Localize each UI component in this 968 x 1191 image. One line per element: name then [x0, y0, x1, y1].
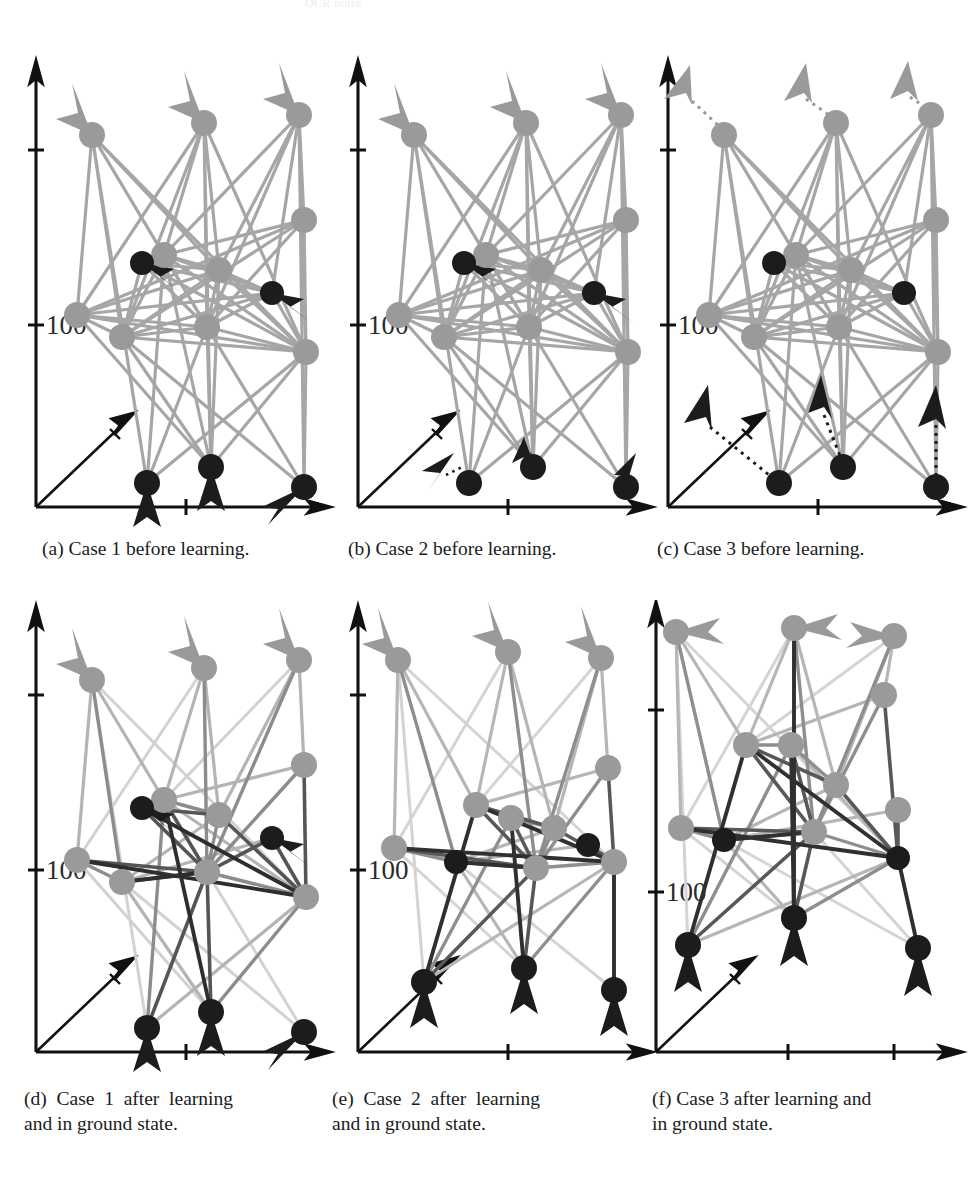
caption-panel-f: (f) Case 3 after learning and in ground …	[652, 1086, 871, 1136]
caption-panel-b: (b) Case 2 before learning.	[348, 536, 556, 561]
caption-panel-a: (a) Case 1 before learning.	[42, 536, 249, 561]
caption-row-before: (a) Case 1 before learning. (b) Case 2 b…	[0, 536, 966, 566]
panel-c-case3-before: 100	[646, 55, 968, 535]
panel-c-plot: 100	[646, 55, 968, 535]
panel-b-case2-before: 100	[336, 55, 658, 535]
edge-group-f	[676, 628, 918, 948]
page-header-artifact: OCR noise	[0, 0, 966, 14]
panel-e-plot: 100	[336, 600, 658, 1080]
caption-panel-e: (e) Case 2 after learning and in ground …	[332, 1086, 540, 1136]
up-spin-arrow-group-c	[664, 61, 918, 105]
caption-panel-d: (d) Case 1 after learning and in ground …	[24, 1086, 233, 1136]
panel-a-plot: 100	[14, 55, 336, 535]
header-faint-text: OCR noise	[305, 0, 362, 11]
panel-f-case3-after: 100	[646, 600, 968, 1080]
down-spin-arrow-group-f	[674, 918, 932, 996]
down-spin-arrow-group-c	[684, 375, 946, 431]
panel-d-plot: 100	[14, 600, 336, 1080]
panel-d-case1-after: 100	[14, 600, 336, 1080]
caption-row-after: (d) Case 1 after learning and in ground …	[0, 1086, 966, 1146]
panel-b-plot: 100	[336, 55, 658, 535]
panel-e-case2-after: 100	[336, 600, 658, 1080]
caption-panel-c: (c) Case 3 before learning.	[657, 536, 864, 561]
panel-f-plot: 100	[646, 600, 968, 1080]
panel-a-case1-before: 100	[14, 55, 336, 535]
